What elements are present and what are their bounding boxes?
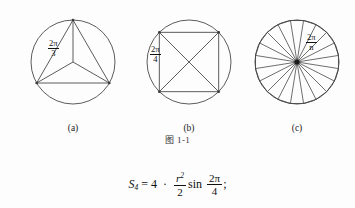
angle-label-a: 2π 3 — [48, 39, 59, 57]
center-dot — [294, 59, 299, 64]
figure-b-caption: (b) — [134, 123, 244, 133]
formula-line: S4 = 4 · r2 2 sin 2π 4 ; — [0, 172, 355, 198]
vertex-dot — [217, 90, 220, 93]
formula-coefficient: 4 — [151, 177, 157, 191]
figure-c: (c) — [242, 10, 352, 135]
formula-fraction-numerator: r2 — [174, 172, 186, 185]
figure-row: (a) (b) (c) 2π 3 2π — [0, 0, 355, 135]
fraction-c: 2π n — [306, 33, 317, 51]
formula-function: sin — [187, 177, 203, 191]
formula-exponent: 2 — [180, 171, 184, 180]
formula-terminator: ; — [223, 177, 226, 191]
figure-a: (a) — [18, 10, 128, 135]
figure-c-drawing — [242, 10, 352, 120]
formula-angle-numerator: 2π — [207, 173, 222, 185]
fraction-denominator: 4 — [150, 54, 161, 64]
radius-line — [297, 62, 327, 92]
fraction-numerator: 2π — [306, 33, 317, 42]
vertex-dot — [217, 31, 220, 34]
figure-b-drawing — [134, 10, 244, 120]
radius-line — [267, 62, 297, 92]
vertex-dot — [158, 90, 161, 93]
radius-line — [73, 62, 109, 83]
fraction-numerator: 2π — [150, 45, 161, 54]
figure-number: 图 1-1 — [0, 133, 355, 146]
formula-angle-fraction: 2π 4 — [207, 173, 222, 198]
formula-angle-denominator: 4 — [207, 184, 222, 198]
fraction-numerator: 2π — [48, 39, 59, 48]
formula-dot: · — [160, 177, 170, 191]
vertex-dot — [108, 82, 111, 85]
figure-c-caption: (c) — [242, 123, 352, 133]
angle-label-c: 2π n — [306, 33, 317, 51]
angle-label-b: 2π 4 — [150, 45, 161, 63]
formula-equals: = — [141, 177, 148, 191]
vertex-dot — [72, 19, 75, 22]
fraction-b: 2π 4 — [150, 45, 161, 63]
figure-a-drawing — [18, 10, 128, 120]
formula-fraction-denominator: 2 — [174, 185, 186, 199]
radius-line — [267, 32, 297, 62]
figure-a-caption: (a) — [18, 123, 128, 133]
fraction-a: 2π 3 — [48, 39, 59, 57]
vertex-dot — [158, 31, 161, 34]
figure-b: (b) — [134, 10, 244, 135]
formula-fraction: r2 2 — [174, 172, 186, 198]
vertex-dot — [35, 82, 38, 85]
radius-line — [37, 62, 73, 83]
fraction-denominator: n — [306, 42, 317, 52]
formula-subscript: 4 — [135, 183, 139, 192]
fraction-denominator: 3 — [48, 48, 59, 58]
